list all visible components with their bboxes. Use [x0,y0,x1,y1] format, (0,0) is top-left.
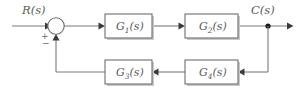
block-g4-label-arg: (s) [213,66,227,79]
sum-minus-sign: − [42,38,50,48]
arrow-output-icon [287,22,294,29]
block-g4-label-g: G [199,66,208,79]
block-g3-label-g: G [116,66,125,79]
block-g1-label-g: G [116,20,125,33]
block-g4-label: G4(s) [199,66,227,81]
block-g2-label-g: G [199,20,208,33]
block-g2-label-arg: (s) [213,20,227,33]
input-label: R(s) [21,3,46,17]
block-g1-label: G1(s) [116,20,144,35]
arrow-into-g2-icon [179,22,186,29]
block-g1-label-arg: (s) [130,20,144,33]
block-g3-label-arg: (s) [130,66,144,79]
summing-junction[interactable] [48,18,64,34]
block-diagram-canvas: + − G1(s) G2(s) G3(s) G4(s) R(s) C(s) [0,0,303,93]
block-g3-label: G3(s) [116,66,144,81]
output-label: C(s) [251,3,275,17]
arrow-into-g1-icon [99,22,106,29]
control-block-diagram: + − G1(s) G2(s) G3(s) G4(s) R(s) C(s) [0,0,303,93]
block-g2-label: G2(s) [199,20,227,35]
arrow-into-sum-bottom-icon [52,34,59,41]
